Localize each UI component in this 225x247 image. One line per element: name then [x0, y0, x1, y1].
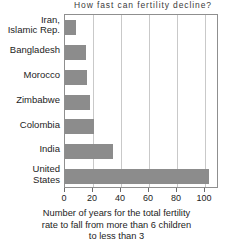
x-tick-label: 80: [164, 193, 188, 203]
x-tick-mark-80: [176, 188, 177, 192]
bar-row: [65, 90, 217, 115]
x-tick-mark-100: [204, 188, 205, 192]
category-label: Zimbabwe: [0, 95, 60, 106]
bar-row: [65, 139, 217, 164]
bar-row: [65, 114, 217, 139]
category-label: India: [0, 144, 60, 155]
bar-row: [65, 164, 217, 188]
category-label: Colombia: [0, 120, 60, 131]
category-label-line: States: [0, 175, 60, 186]
bar: [65, 45, 86, 60]
category-label-line: Zimbabwe: [0, 95, 60, 106]
category-label-line: Bangladesh: [0, 45, 60, 56]
category-label-line: India: [0, 144, 60, 155]
bar: [65, 95, 90, 110]
x-tick-label: 0: [52, 193, 76, 203]
bar: [65, 169, 209, 184]
x-tick-mark-60: [148, 188, 149, 192]
category-label-line: Morocco: [0, 70, 60, 81]
x-axis-label-line: rate to fall from more than 6 children: [14, 220, 219, 232]
x-tick-label: 100: [192, 193, 216, 203]
category-label-line: Colombia: [0, 120, 60, 131]
category-label-line: United: [0, 164, 60, 175]
x-tick-mark-40: [120, 188, 121, 192]
bar-row: [65, 15, 217, 40]
plot-area: [64, 14, 218, 188]
bar-row: [65, 40, 217, 65]
x-tick-label: 60: [136, 193, 160, 203]
category-label: UnitedStates: [0, 164, 60, 185]
y-axis-category-labels: Iran,Islamic Rep.BangladeshMoroccoZimbab…: [0, 14, 60, 188]
x-tick-mark-0: [64, 188, 65, 192]
x-tick-label: 40: [108, 193, 132, 203]
bar-row: [65, 65, 217, 90]
category-label-line: Islamic Rep.: [0, 25, 60, 36]
x-tick-label: 20: [80, 193, 104, 203]
category-label: Iran,Islamic Rep.: [0, 15, 60, 36]
fertility-decline-bar-chart: How fast can fertility decline? Iran,Isl…: [0, 0, 225, 247]
x-tick-mark-20: [92, 188, 93, 192]
bar: [65, 119, 94, 134]
x-axis-label-line: to less than 3: [14, 231, 219, 243]
category-label: Morocco: [0, 70, 60, 81]
category-label: Bangladesh: [0, 45, 60, 56]
x-axis-label-line: Number of years for the total fertility: [14, 208, 219, 220]
bar: [65, 70, 87, 85]
bar: [65, 20, 76, 35]
bar: [65, 144, 113, 159]
x-axis-label: Number of years for the total fertilityr…: [14, 208, 219, 243]
chart-title: How fast can fertility decline?: [64, 0, 222, 10]
